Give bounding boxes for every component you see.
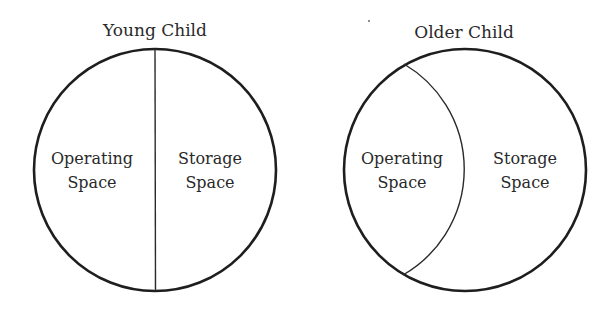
older-child-divider-arc (403, 64, 464, 275)
young-child-divider (155, 49, 156, 291)
young-child-storage-label-1: Storage (178, 149, 242, 168)
stray-dot (368, 20, 370, 22)
working-memory-diagram: Young Child Operating Space Storage Spac… (0, 0, 616, 313)
older-child-circle (344, 49, 586, 291)
young-child-operating-label-2: Space (67, 173, 116, 192)
young-child-diagram: Young Child Operating Space Storage Spac… (34, 20, 276, 291)
older-child-storage-label-2: Space (500, 173, 549, 192)
older-child-title: Older Child (414, 22, 514, 42)
young-child-operating-label-1: Operating (51, 149, 133, 168)
older-child-operating-label-1: Operating (361, 149, 443, 168)
older-child-operating-label-2: Space (377, 173, 426, 192)
young-child-storage-label-2: Space (185, 173, 234, 192)
older-child-diagram: Older Child Operating Space Storage Spac… (344, 20, 586, 291)
young-child-title: Young Child (102, 20, 207, 40)
older-child-storage-label-1: Storage (493, 149, 557, 168)
